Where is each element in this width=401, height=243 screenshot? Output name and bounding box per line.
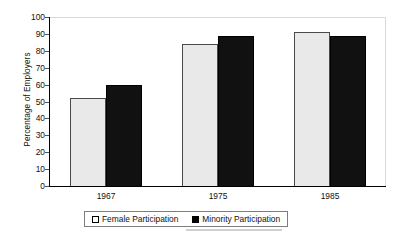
y-axis-tick-mark [45, 68, 49, 69]
bar-1975-female [182, 44, 218, 186]
y-axis-tick-mark [45, 102, 49, 103]
bars-layer [50, 17, 386, 186]
y-axis-tick-mark [45, 169, 49, 170]
y-axis-tick-label: 70 [0, 63, 45, 73]
y-axis-tick-label: 40 [0, 113, 45, 123]
x-axis-tick-label: 1967 [66, 191, 146, 201]
bar-1975-minority [218, 36, 254, 186]
legend-swatch-female-icon [92, 216, 99, 223]
chart-legend: Female ParticipationMinority Participati… [84, 211, 288, 227]
y-axis-tick-mark [45, 186, 49, 187]
legend-swatch-minority-icon [192, 216, 199, 223]
y-axis-tick-label: 10 [0, 164, 45, 174]
legend-item-female: Female Participation [92, 214, 178, 224]
y-axis-tick-mark [45, 51, 49, 52]
x-axis-tick-label: 1975 [178, 191, 258, 201]
legend-label: Female Participation [102, 214, 178, 224]
y-axis-tick-label: 60 [0, 80, 45, 90]
y-axis-tick-label: 30 [0, 130, 45, 140]
bar-1985-female [294, 32, 330, 186]
y-axis-tick-mark [45, 85, 49, 86]
bar-1985-minority [330, 36, 366, 186]
y-axis-tick-mark [45, 17, 49, 18]
y-axis-tick-mark [45, 135, 49, 136]
x-axis-line [49, 186, 386, 187]
y-axis-tick-mark [45, 152, 49, 153]
y-axis-tick-label: 90 [0, 29, 45, 39]
y-axis-tick-label: 50 [0, 97, 45, 107]
x-axis-tick-label: 1985 [290, 191, 370, 201]
y-axis-tick-label: 0 [0, 181, 45, 191]
scan-artifact [186, 229, 282, 231]
legend-item-minority: Minority Participation [192, 214, 280, 224]
legend-label: Minority Participation [202, 214, 280, 224]
bar-1967-female [70, 98, 106, 186]
y-axis-tick-label: 80 [0, 46, 45, 56]
y-axis-tick-mark [45, 118, 49, 119]
y-axis-tick-mark [45, 34, 49, 35]
bar-1967-minority [106, 85, 142, 186]
bar-chart: Percentage of Employers 0102030405060708… [0, 0, 401, 243]
y-axis-tick-label: 20 [0, 147, 45, 157]
page-edge [0, 235, 401, 243]
y-axis-tick-label: 100 [0, 12, 45, 22]
